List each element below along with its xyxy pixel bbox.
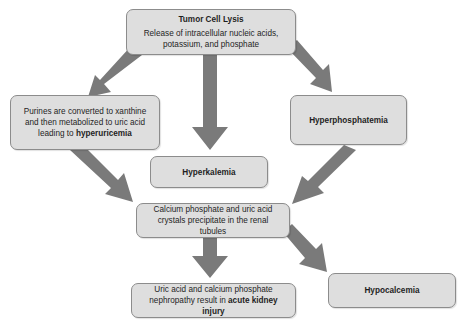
node-text: Uric acid and calcium phosphate nephropa…: [132, 284, 295, 317]
node-title: Tumor Cell Lysis: [178, 14, 243, 25]
node-text-bold: hyperuricemia: [76, 129, 132, 138]
node-crystals-precipitate: Calcium phosphate and uric acid crystals…: [136, 203, 290, 238]
arrow-purines-to-crystals: [70, 146, 133, 202]
arrow-hyperphos-to-crystals: [292, 145, 356, 204]
node-tumor-cell-lysis: Tumor Cell Lysis Release of intracellula…: [126, 9, 296, 55]
node-text: Purines are converted to xanthine and th…: [11, 106, 159, 139]
node-text-bold: Hyperkalemia: [182, 167, 235, 178]
node-text-bold: Hyperphosphatemia: [309, 115, 388, 126]
node-hypocalcemia: Hypocalcemia: [328, 273, 456, 308]
arrow-lysis-to-hyperkalemia: [192, 55, 228, 150]
node-text: Release of intracellular nucleic acids, …: [127, 28, 295, 50]
node-purines-hyperuricemia: Purines are converted to xanthine and th…: [10, 95, 160, 150]
node-hyperphosphatemia: Hyperphosphatemia: [290, 95, 407, 145]
node-text: Calcium phosphate and uric acid crystals…: [137, 204, 289, 237]
node-text-bold: Hypocalcemia: [364, 285, 419, 296]
node-hyperkalemia: Hyperkalemia: [150, 156, 268, 188]
node-acute-kidney-injury: Uric acid and calcium phosphate nephropa…: [131, 283, 296, 318]
arrow-crystals-to-aki: [192, 238, 228, 278]
